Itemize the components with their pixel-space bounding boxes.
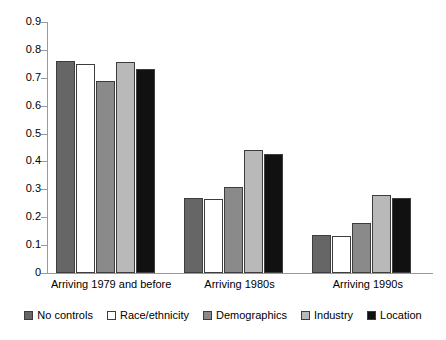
bar [96, 81, 115, 273]
y-axis-tick-label-text: 0.5 [3, 128, 41, 139]
y-axis-tick-label-text: 0 [3, 267, 41, 278]
bar [244, 150, 263, 273]
x-axis-category-label: Arriving 1990s [284, 278, 446, 291]
bar-chart: 00.10.20.30.40.50.60.70.80.9 Arriving 19… [0, 0, 446, 340]
bar-group [184, 22, 283, 273]
bar [56, 61, 75, 273]
y-axis-tick [41, 78, 47, 79]
legend-swatch-icon [301, 311, 310, 320]
y-axis-tick-label: 0.9 [0, 16, 41, 27]
x-axis-line [47, 273, 433, 274]
bar [184, 198, 203, 273]
y-axis-tick-label-text: 0.4 [3, 155, 41, 166]
bar [264, 154, 283, 273]
bar [224, 187, 243, 273]
y-axis-tick-label-text: 0.1 [3, 239, 41, 250]
y-axis-tick-label: 0 [0, 267, 41, 278]
bar [312, 235, 331, 273]
legend-item-label: Industry [314, 310, 353, 321]
bar-group [56, 22, 155, 273]
bar [372, 195, 391, 273]
y-axis-tick [41, 273, 47, 274]
legend-swatch-icon [203, 311, 212, 320]
legend-item-label: No controls [37, 310, 93, 321]
y-axis-line [47, 22, 48, 274]
bar [332, 236, 351, 273]
legend-item-label: Race/ethnicity [120, 310, 189, 321]
legend-swatch-icon [24, 311, 33, 320]
y-axis-tick-label-text: 0.2 [3, 211, 41, 222]
y-axis-tick-label-text: 0.3 [3, 183, 41, 194]
y-axis-tick-label: 0.5 [0, 128, 41, 139]
legend-item[interactable]: No controls [24, 310, 93, 321]
y-axis-tick [41, 106, 47, 107]
y-axis-tick [41, 22, 47, 23]
bar [136, 69, 155, 273]
bar [76, 64, 95, 273]
y-axis-tick [41, 245, 47, 246]
y-axis-tick-label: 0.8 [0, 44, 41, 55]
legend-item[interactable]: Industry [301, 310, 353, 321]
y-axis-tick-label-text: 0.7 [3, 72, 41, 83]
y-axis-tick-label: 0.2 [0, 211, 41, 222]
y-axis-tick [41, 134, 47, 135]
bar [116, 62, 135, 273]
bar [352, 223, 371, 273]
legend-swatch-icon [107, 311, 116, 320]
y-axis-tick [41, 50, 47, 51]
y-axis-tick-label: 0.1 [0, 239, 41, 250]
bar-group [312, 22, 411, 273]
legend-item[interactable]: Race/ethnicity [107, 310, 189, 321]
legend-item-label: Demographics [216, 310, 287, 321]
bar [392, 198, 411, 273]
y-axis-tick-label: 0.6 [0, 100, 41, 111]
y-axis-tick-label-text: 0.8 [3, 44, 41, 55]
y-axis-tick-label: 0.3 [0, 183, 41, 194]
y-axis-tick [41, 161, 47, 162]
legend-item[interactable]: Demographics [203, 310, 287, 321]
bar [204, 199, 223, 273]
y-axis-tick [41, 189, 47, 190]
chart-legend: No controlsRace/ethnicityDemographicsInd… [0, 310, 446, 321]
legend-item[interactable]: Location [367, 310, 422, 321]
y-axis-tick [41, 217, 47, 218]
legend-swatch-icon [367, 311, 376, 320]
y-axis-tick-label: 0.4 [0, 155, 41, 166]
y-axis-tick-label: 0.7 [0, 72, 41, 83]
y-axis-tick-label-text: 0.6 [3, 100, 41, 111]
y-axis-tick-label-text: 0.9 [3, 16, 41, 27]
legend-item-label: Location [380, 310, 422, 321]
